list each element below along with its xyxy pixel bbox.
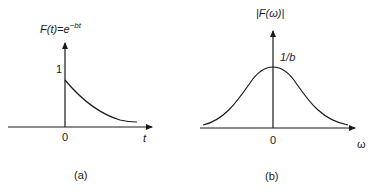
y-label-main-a: F(t)=e bbox=[40, 23, 70, 35]
x-axis-label-t: t bbox=[143, 133, 146, 144]
y-tick-one: 1 bbox=[56, 64, 62, 75]
peak-label: 1/b bbox=[280, 52, 295, 63]
caption-a: (a) bbox=[74, 170, 87, 181]
y-axis-label-b: |F(ω)| bbox=[256, 8, 284, 19]
panel-b bbox=[200, 31, 355, 128]
y-axis-label-a: F(t)=e−bt bbox=[40, 22, 81, 35]
spectrum-curve bbox=[203, 67, 348, 125]
x-axis-label-omega: ω bbox=[357, 139, 366, 150]
caption-b: (b) bbox=[265, 171, 278, 182]
origin-label-b: 0 bbox=[270, 135, 276, 146]
y-label-exponent-a: −bt bbox=[70, 21, 81, 30]
panel-a bbox=[8, 43, 152, 127]
decay-curve bbox=[65, 80, 137, 122]
origin-label-a: 0 bbox=[62, 132, 68, 143]
